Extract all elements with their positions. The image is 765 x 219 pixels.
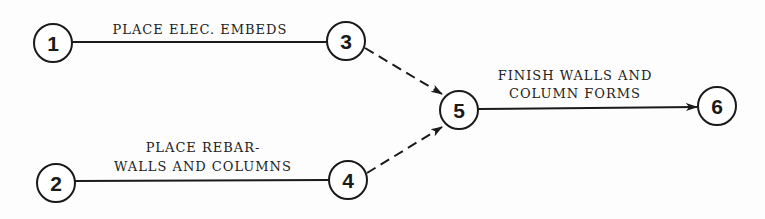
node-5-label: 5: [453, 99, 465, 122]
node-5: 5: [440, 91, 478, 129]
node-6-label: 6: [711, 95, 723, 118]
network-diagram: PLACE ELEC. EMBEDS PLACE REBAR- WALLS AN…: [0, 0, 765, 219]
node-1-label: 1: [47, 32, 59, 55]
node-3: 3: [327, 22, 365, 60]
activity-5-6: FINISH WALLS AND COLUMN FORMS: [478, 68, 697, 109]
dummy-activity-3-5: [365, 48, 442, 94]
activity-1-3: PLACE ELEC. EMBEDS: [72, 22, 327, 42]
node-3-label: 3: [340, 30, 352, 53]
activity-5-6-label-line2: COLUMN FORMS: [509, 86, 641, 101]
node-4-label: 4: [342, 169, 354, 192]
node-4: 4: [329, 161, 367, 199]
activity-2-4: PLACE REBAR- WALLS AND COLUMNS: [75, 140, 329, 181]
activity-2-4-label-line1: PLACE REBAR-: [146, 140, 261, 155]
node-6: 6: [698, 87, 736, 125]
node-1: 1: [34, 24, 72, 62]
diagram-svg: PLACE ELEC. EMBEDS PLACE REBAR- WALLS AN…: [0, 0, 765, 219]
activity-2-4-label-line2: WALLS AND COLUMNS: [114, 159, 292, 174]
activity-1-3-label: PLACE ELEC. EMBEDS: [113, 22, 288, 37]
node-2-label: 2: [50, 172, 62, 195]
node-2: 2: [37, 164, 75, 202]
activity-5-6-label-line1: FINISH WALLS AND: [498, 68, 653, 83]
dummy-activity-4-5: [367, 127, 442, 173]
